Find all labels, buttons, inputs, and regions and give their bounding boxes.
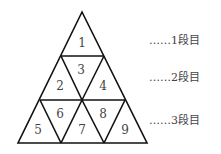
cell-3: 3 [77, 63, 85, 77]
cell-7: 7 [78, 123, 86, 137]
cell-6: 6 [56, 107, 64, 121]
row-label-3: ……3段目 [149, 111, 200, 127]
cell-8: 8 [99, 107, 107, 121]
row-label-2: ……2段目 [149, 68, 200, 84]
inner-line-b [82, 56, 104, 100]
cell-9: 9 [121, 123, 129, 137]
cell-4: 4 [99, 79, 107, 93]
cell-2: 2 [56, 79, 64, 93]
cell-5: 5 [34, 123, 42, 137]
row-label-1: ……1段目 [149, 31, 200, 47]
cell-1: 1 [78, 36, 86, 50]
